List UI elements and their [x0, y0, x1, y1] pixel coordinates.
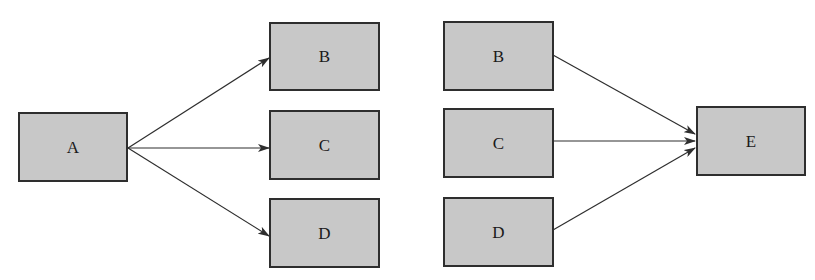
node-d-right-label: D: [492, 224, 504, 241]
node-b-left: B: [269, 22, 380, 91]
edge-a-to-b: [128, 58, 269, 148]
edge-b-to-e: [553, 55, 695, 134]
node-a-label: A: [67, 139, 79, 156]
node-a: A: [18, 112, 128, 182]
node-d-right: D: [443, 197, 554, 267]
node-e: E: [696, 106, 806, 176]
node-b-right-label: B: [493, 48, 504, 65]
node-d-left-label: D: [318, 225, 330, 242]
node-b-left-label: B: [319, 48, 330, 65]
diagram-canvas: A B C D B C D E: [0, 0, 815, 280]
node-e-label: E: [746, 133, 756, 150]
node-c-right-label: C: [493, 135, 504, 152]
node-c-left: C: [269, 110, 380, 180]
edge-a-to-d: [128, 148, 269, 236]
node-d-left: D: [269, 198, 380, 268]
node-b-right: B: [443, 21, 554, 91]
node-c-right: C: [443, 108, 554, 178]
edge-d-to-e: [553, 148, 695, 230]
node-c-left-label: C: [319, 137, 330, 154]
